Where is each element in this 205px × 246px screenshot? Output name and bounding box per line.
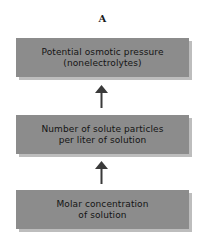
up-arrow-icon <box>95 161 108 184</box>
box-solute-particles: Number of solute particles per liter of … <box>16 115 189 154</box>
up-arrow-icon <box>95 85 108 108</box>
box-label: Potential osmotic pressure (nonelectroly… <box>41 47 163 69</box>
box-label: Molar concentration of solution <box>56 199 148 221</box>
panel-label: A <box>0 13 205 24</box>
box-label: Number of solute particles per liter of … <box>41 124 163 146</box>
box-molar-concentration: Molar concentration of solution <box>16 190 189 229</box>
box-osmotic-pressure: Potential osmotic pressure (nonelectroly… <box>16 38 189 77</box>
